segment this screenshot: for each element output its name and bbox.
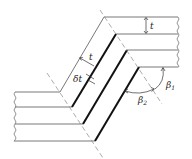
top-thickness-dimension: t [144,18,154,34]
label-t-top: t [150,21,154,31]
label-t-diagonal: t [89,52,93,62]
label-beta2: β2 [137,95,147,106]
right-break-edge [177,17,179,67]
beta2-angle: β2 [125,88,155,107]
label-delta-t: δt [73,74,82,84]
diagonal-thickness-dimension: t [80,52,95,66]
left-break-edge [14,92,16,141]
label-beta1: β1 [165,80,175,91]
right-layer-lines [104,17,178,67]
left-layer-lines [15,92,95,141]
layered-shear-diagram: t t δt β1 β2 [0,0,192,159]
beta1-angle: β1 [155,68,175,92]
